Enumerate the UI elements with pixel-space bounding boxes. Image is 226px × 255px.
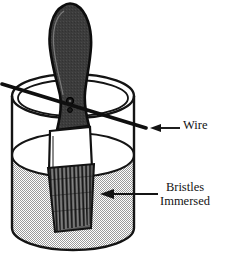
bristles-immersed-label: Bristles Immersed	[160, 180, 210, 208]
handle-rivet	[68, 108, 73, 113]
bristles-label-line1: Bristles	[160, 180, 210, 194]
wire-label: Wire	[183, 119, 207, 133]
bristles-label-line2: Immersed	[160, 194, 210, 208]
handle-hang-hole-inner	[69, 100, 72, 103]
wire-arrow-head	[150, 124, 161, 132]
figure-container: Wire Bristles Immersed	[0, 0, 226, 255]
